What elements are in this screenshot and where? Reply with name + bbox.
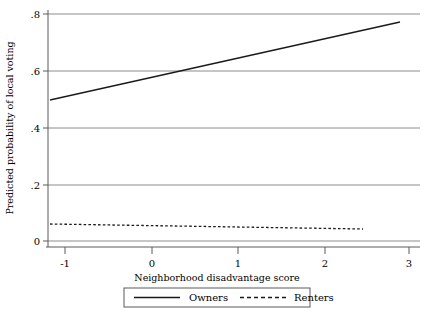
chart-svg: .8 .6 .4 .2 0 Predicted probability of l… bbox=[0, 0, 426, 315]
legend-label-renters: Renters bbox=[294, 292, 334, 303]
y-axis-title: Predicted probability of local voting bbox=[4, 41, 15, 214]
x-tick-label-2: 2 bbox=[322, 258, 328, 269]
x-tick-label-3: 3 bbox=[406, 258, 412, 269]
chart-figure: .8 .6 .4 .2 0 Predicted probability of l… bbox=[0, 0, 426, 315]
y-tick-label-0.2: .2 bbox=[30, 180, 40, 191]
y-tick-label-0: 0 bbox=[34, 236, 40, 247]
x-tick-label--1: -1 bbox=[60, 258, 70, 269]
x-tick-label-1: 1 bbox=[235, 258, 241, 269]
chart-legend: Owners Renters bbox=[124, 288, 334, 307]
x-tick-label-0: 0 bbox=[149, 258, 155, 269]
y-tick-label-0.8: .8 bbox=[30, 9, 40, 20]
y-tick-label-0.4: .4 bbox=[30, 123, 40, 134]
legend-label-owners: Owners bbox=[189, 292, 228, 303]
y-tick-label-0.6: .6 bbox=[30, 66, 40, 77]
x-axis-title: Neighborhood disadvantage score bbox=[134, 272, 300, 283]
